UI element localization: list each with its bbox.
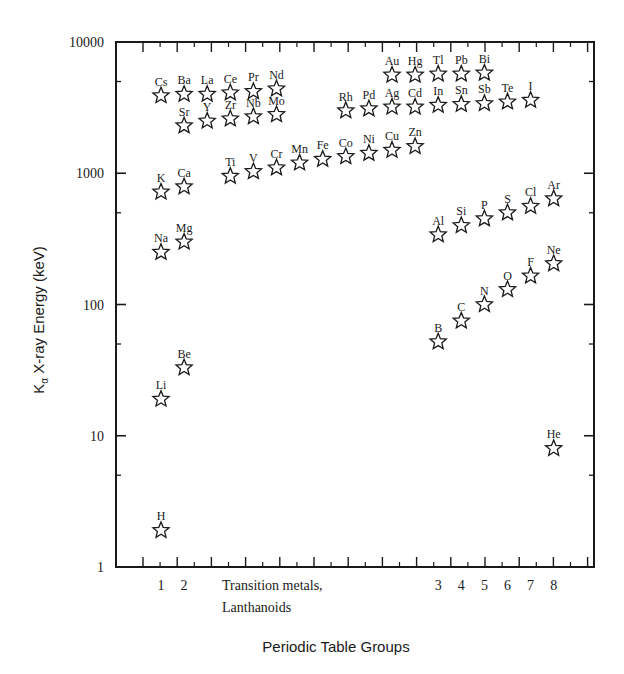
star-marker-icon xyxy=(430,226,446,241)
data-point-bi: Bi xyxy=(476,52,492,80)
y-label-base: K xyxy=(30,384,47,394)
star-marker-icon xyxy=(245,163,261,178)
element-label: Cr xyxy=(271,147,283,161)
data-point-cl: Cl xyxy=(523,185,539,213)
star-marker-icon xyxy=(523,92,539,107)
x-group-label: 8 xyxy=(550,578,557,593)
element-label: Hg xyxy=(408,54,423,68)
element-label: Mg xyxy=(176,221,193,235)
data-point-he: He xyxy=(546,427,562,455)
data-point-li: Li xyxy=(153,378,169,406)
element-label: Ca xyxy=(177,166,191,180)
element-label: Fe xyxy=(317,138,329,152)
element-label: Bi xyxy=(479,52,491,66)
star-marker-icon xyxy=(546,255,562,270)
star-marker-icon xyxy=(222,168,238,183)
element-label: Cl xyxy=(525,185,537,199)
plot-axes xyxy=(116,42,594,567)
y-tick-label: 1000 xyxy=(76,166,104,181)
data-point-au: Au xyxy=(384,54,400,82)
data-point-nb: Nb xyxy=(245,96,261,124)
data-point-si: Si xyxy=(453,204,469,232)
element-label: Pr xyxy=(248,70,259,84)
element-label: Li xyxy=(156,378,167,392)
element-label: H xyxy=(157,509,166,523)
element-label: F xyxy=(527,255,534,269)
data-point-hg: Hg xyxy=(407,54,423,82)
star-marker-icon xyxy=(384,67,400,82)
x-group-label: 5 xyxy=(481,578,488,593)
data-point-in: In xyxy=(430,84,446,112)
data-point-ce: Ce xyxy=(222,72,238,100)
data-point-zr: Zr xyxy=(222,98,238,126)
star-marker-icon xyxy=(176,233,192,248)
star-marker-icon xyxy=(476,95,492,110)
element-label: Mn xyxy=(291,142,308,156)
data-point-o: O xyxy=(499,269,515,297)
data-point-ti: Ti xyxy=(222,155,238,183)
data-point-pr: Pr xyxy=(245,70,261,98)
star-marker-icon xyxy=(222,110,238,125)
x-group-label: 2 xyxy=(181,578,188,593)
star-marker-icon xyxy=(176,178,192,193)
data-point-h: H xyxy=(153,509,169,537)
data-point-pb: Pb xyxy=(453,53,469,81)
element-label: Rh xyxy=(339,90,353,104)
data-point-sr: Sr xyxy=(176,105,192,133)
star-marker-icon xyxy=(268,106,284,121)
element-label: K xyxy=(157,171,166,185)
x-group-label: Lanthanoids xyxy=(222,600,291,615)
data-point-y: Y xyxy=(199,100,215,128)
x-axis-label: Periodic Table Groups xyxy=(262,638,409,655)
data-point-i: I xyxy=(523,79,539,107)
star-marker-icon xyxy=(268,159,284,174)
ka-energy-chart: 110100100010000 HLiNaKCsBeMgCaSrBaLaYCeZ… xyxy=(0,0,624,674)
x-group-labels: 12Transition metals,Lanthanoids345678 xyxy=(158,578,558,615)
data-point-s: S xyxy=(499,192,515,220)
y-axis-label: Kα X-ray Energy (keV) xyxy=(30,246,50,394)
star-marker-icon xyxy=(453,66,469,81)
star-marker-icon xyxy=(430,97,446,112)
y-tick-label: 1 xyxy=(97,560,104,575)
star-marker-icon xyxy=(153,87,169,102)
y-label-rest: X-ray Energy (keV) xyxy=(30,246,47,378)
star-marker-icon xyxy=(176,359,192,374)
element-label: Cs xyxy=(155,75,168,89)
star-marker-icon xyxy=(315,151,331,166)
star-marker-icon xyxy=(292,154,308,169)
star-marker-icon xyxy=(546,190,562,205)
star-marker-icon xyxy=(499,93,515,108)
element-label: Ne xyxy=(547,243,561,257)
element-label: Ce xyxy=(224,72,237,86)
star-marker-icon xyxy=(153,522,169,537)
star-marker-icon xyxy=(153,184,169,199)
element-label: P xyxy=(481,198,488,212)
data-point-zn: Zn xyxy=(407,125,423,153)
element-label: Y xyxy=(203,100,212,114)
data-point-n: N xyxy=(476,284,492,312)
star-marker-icon xyxy=(176,86,192,101)
element-label: Nb xyxy=(246,96,261,110)
data-points: HLiNaKCsBeMgCaSrBaLaYCeZrTiPrNbVNdMoCrMn… xyxy=(153,52,562,537)
data-point-sn: Sn xyxy=(453,83,469,111)
element-label: Ar xyxy=(547,178,560,192)
element-label: Tl xyxy=(433,53,444,67)
element-label: Ni xyxy=(363,132,376,146)
data-point-be: Be xyxy=(176,347,192,375)
element-label: Zr xyxy=(225,98,236,112)
data-point-ca: Ca xyxy=(176,166,192,194)
data-point-v: V xyxy=(245,151,261,179)
data-point-mg: Mg xyxy=(176,221,193,249)
data-point-c: C xyxy=(453,300,469,328)
element-label: Au xyxy=(385,54,400,68)
star-marker-icon xyxy=(199,86,215,101)
data-point-p: P xyxy=(476,198,492,226)
y-tick-label: 100 xyxy=(83,298,104,313)
star-marker-icon xyxy=(523,268,539,283)
star-marker-icon xyxy=(453,312,469,327)
x-group-label: 3 xyxy=(435,578,442,593)
element-label: Sn xyxy=(455,83,468,97)
data-point-ba: Ba xyxy=(176,73,192,101)
x-group-label: 1 xyxy=(158,578,165,593)
data-point-na: Na xyxy=(153,231,169,259)
